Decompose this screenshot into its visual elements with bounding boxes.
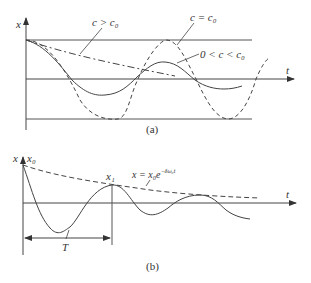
figure-a: x t c > c₀ c = c₀ 0 < c < c₀ (a) [15, 11, 294, 136]
y-axis-label-a: x [15, 18, 21, 30]
period-label: T [62, 241, 69, 253]
caption-a: (a) [146, 123, 159, 136]
t-axis-label-a: t [286, 64, 290, 76]
figure-canvas: x t c > c₀ c = c₀ 0 < c < c₀ (a) x x₀ x₁… [0, 0, 311, 283]
label-overdamped: c > c₀ [92, 16, 119, 28]
label-underdamped: 0 < c < c₀ [200, 48, 245, 60]
figure-b: x x₀ x₁ x = x₀e−δω₀t t T (b) [12, 152, 296, 273]
t-axis-label-b: t [286, 188, 290, 200]
overdamped-curve [26, 40, 175, 76]
initial-label: x₀ [26, 152, 36, 164]
label-undamped: c = c₀ [190, 11, 217, 23]
envelope-label: x = x₀e−δω₀t [131, 168, 176, 180]
caption-b: (b) [146, 260, 159, 273]
y-axis-label-b: x [12, 152, 18, 164]
envelope-exponent: −δω₀t [161, 168, 176, 174]
peak-label: x₁ [105, 170, 115, 182]
